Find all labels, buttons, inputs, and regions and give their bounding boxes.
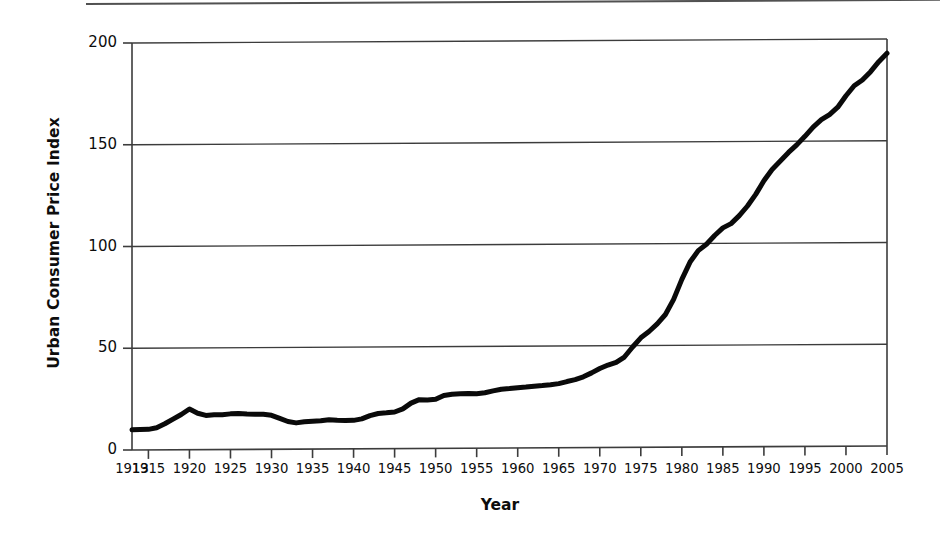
- x-tick-label-1915: 1915: [126, 462, 170, 476]
- x-tick-label-1965: 1965: [537, 462, 581, 476]
- cpi-line-chart-figure: Urban Consumer Price Index Year 05010015…: [0, 0, 940, 542]
- x-tick-label-1920: 1920: [167, 462, 211, 476]
- gridline-200: [132, 39, 887, 43]
- x-tick-label-1930: 1930: [250, 462, 294, 476]
- gridline-50: [132, 344, 887, 348]
- x-tick-label-1985: 1985: [701, 462, 745, 476]
- y-tick-mark-group: [123, 43, 132, 450]
- y-tick-label-150: 150: [69, 137, 117, 152]
- y-tick-label-100: 100: [69, 239, 117, 254]
- gridline-150: [132, 141, 887, 145]
- x-tick-label-1975: 1975: [619, 462, 663, 476]
- x-tick-label-2000: 2000: [824, 462, 868, 476]
- gridline-0: [132, 446, 887, 450]
- x-tick-label-1940: 1940: [332, 462, 376, 476]
- x-tick-label-1970: 1970: [578, 462, 622, 476]
- x-tick-label-1980: 1980: [660, 462, 704, 476]
- x-tick-label-1955: 1955: [455, 462, 499, 476]
- cpi-series-line: [132, 53, 887, 430]
- gridline-100: [132, 243, 887, 247]
- x-tick-label-2005: 2005: [865, 462, 909, 476]
- y-tick-label-0: 0: [69, 442, 117, 457]
- x-tick-label-1990: 1990: [742, 462, 786, 476]
- x-tick-label-1960: 1960: [496, 462, 540, 476]
- x-tick-label-1950: 1950: [414, 462, 458, 476]
- x-tick-label-1935: 1935: [291, 462, 335, 476]
- y-tick-label-200: 200: [69, 35, 117, 50]
- x-tick-label-1995: 1995: [783, 462, 827, 476]
- x-tick-label-1945: 1945: [373, 462, 417, 476]
- x-tick-label-1925: 1925: [208, 462, 252, 476]
- y-tick-label-50: 50: [69, 340, 117, 355]
